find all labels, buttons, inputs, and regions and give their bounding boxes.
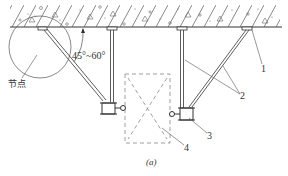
left-vertical-anchor <box>107 27 117 30</box>
node-leader-line <box>22 55 37 78</box>
left-anchor-plate <box>38 27 47 30</box>
node-label: 节点 <box>8 79 26 89</box>
right-vertical-rod <box>181 30 184 108</box>
callout-2: 2 <box>240 91 245 101</box>
left-diagonal-brace <box>44 29 106 101</box>
left-vertical-rod <box>111 30 114 102</box>
callout-1: 1 <box>261 64 266 74</box>
right-anchor-plate <box>242 27 252 30</box>
callout-4: 4 <box>184 143 189 153</box>
figure-caption: (a) <box>146 157 157 167</box>
right-vertical-anchor <box>177 27 187 30</box>
callout-3: 3 <box>207 131 212 141</box>
left-pipe-clamp <box>100 103 126 114</box>
duct-outline <box>125 74 170 143</box>
concrete-slab <box>10 5 282 27</box>
angle-arrow-icon <box>81 28 85 33</box>
callout-leaders <box>162 30 262 145</box>
angle-label: 45°~60° <box>72 51 105 61</box>
seismic-bracket-diagram <box>0 0 288 176</box>
right-pipe-clamp <box>170 108 196 120</box>
